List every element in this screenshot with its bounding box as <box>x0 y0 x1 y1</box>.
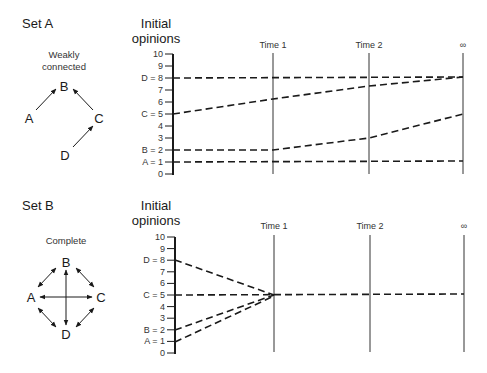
set-b-time-1-label: Time 1 <box>260 221 287 231</box>
set-a-line-c <box>173 77 463 114</box>
set-b-tick-7: 7 <box>160 267 165 277</box>
set-a-node-c: C <box>94 111 103 126</box>
set-a-tick-1: A = 1 <box>142 157 163 167</box>
edge-a-b-double-arrow-icon <box>38 268 56 287</box>
set-a-tick-9: 9 <box>158 61 163 71</box>
set-a-axis-title-1: Initial <box>141 16 171 31</box>
set-b-tick-2: B = 2 <box>144 325 165 335</box>
set-b-infinity-label: ∞ <box>461 221 467 231</box>
set-a-line-b <box>173 114 463 150</box>
set-a-tick-5: C = 5 <box>141 109 163 119</box>
set-b-tick-5: C = 5 <box>143 290 165 300</box>
set-a-node-a: A <box>25 111 34 126</box>
set-b-tick-10: 10 <box>155 232 165 242</box>
set-a-tick-6: 6 <box>158 97 163 107</box>
set-b-opinion-lines <box>175 260 464 342</box>
set-b-node-b: B <box>62 255 71 270</box>
set-b-time-2-label: Time 2 <box>356 221 383 231</box>
set-b-line-d <box>175 260 274 295</box>
set-a-tick-2: B = 2 <box>142 145 163 155</box>
set-a-opinion-lines <box>173 77 463 162</box>
set-a-tick-10: 10 <box>153 49 163 59</box>
set-b-axis-title-1: Initial <box>141 198 171 213</box>
set-b-tick-6: 6 <box>160 278 165 288</box>
set-a-title: Set A <box>22 16 53 31</box>
set-b-network-label: Complete <box>46 235 87 246</box>
set-a-time-1-label: Time 1 <box>259 40 286 50</box>
set-a-panel: Set A Weakly connected B A C D Initial o… <box>22 16 466 179</box>
set-a-time-2-label: Time 2 <box>355 40 382 50</box>
set-b-tick-8: D = 8 <box>143 255 165 265</box>
set-a-network-label-2: connected <box>42 61 86 72</box>
edge-b-c-double-arrow-icon <box>76 268 94 287</box>
edge-d-a-double-arrow-icon <box>38 308 56 327</box>
set-b-node-c: C <box>96 290 105 305</box>
edge-a-to-b-arrow-icon <box>36 89 56 110</box>
set-a-time-lines: Time 1 Time 2 ∞ <box>259 40 466 174</box>
set-a-tick-3: 3 <box>158 133 163 143</box>
set-b-line-a <box>175 296 274 342</box>
set-a-line-d <box>173 77 463 78</box>
set-b-tick-3: 3 <box>160 313 165 323</box>
set-a-network-label-1: Weakly <box>49 49 80 60</box>
set-a-tick-0: 0 <box>158 169 163 179</box>
set-b-network-graph: B A C D <box>27 255 106 342</box>
opinion-dynamics-figure: Set A Weakly connected B A C D Initial o… <box>0 0 487 373</box>
edge-d-to-c-arrow-icon <box>73 126 93 147</box>
set-b-axis-title-2: opinions <box>132 213 181 228</box>
set-a-node-b: B <box>60 79 69 94</box>
set-b-tick-1: A = 1 <box>144 336 165 346</box>
set-b-panel: Set B Complete B A C D Initial opinions <box>22 198 467 358</box>
set-b-node-a: A <box>27 290 36 305</box>
set-a-line-a <box>173 161 463 162</box>
set-a-tick-8: D = 8 <box>141 73 163 83</box>
set-a-infinity-label: ∞ <box>460 40 466 50</box>
set-b-tick-4: 4 <box>160 302 165 312</box>
edge-c-to-b-arrow-icon <box>73 89 93 110</box>
set-a-node-d: D <box>60 148 69 163</box>
set-b-line-c <box>175 294 464 295</box>
set-b-tick-0: 0 <box>160 348 165 358</box>
set-a-tick-7: 7 <box>158 85 163 95</box>
set-b-tick-9: 9 <box>160 244 165 254</box>
set-b-line-b <box>175 295 274 330</box>
set-a-tick-4: 4 <box>158 121 163 131</box>
set-a-y-axis: 0 A = 1 B = 2 3 4 C = 5 6 7 D = 8 9 10 <box>141 49 173 179</box>
set-a-axis-title-2: opinions <box>132 31 181 46</box>
set-b-node-d: D <box>61 327 70 342</box>
set-b-y-axis: 0 A = 1 B = 2 3 4 C = 5 6 7 D = 8 9 10 <box>143 232 175 358</box>
edge-c-d-double-arrow-icon <box>76 308 94 327</box>
set-a-network-graph: B A C D <box>25 79 104 163</box>
set-b-time-lines: Time 1 Time 2 ∞ <box>260 221 467 352</box>
set-b-title: Set B <box>22 198 54 213</box>
